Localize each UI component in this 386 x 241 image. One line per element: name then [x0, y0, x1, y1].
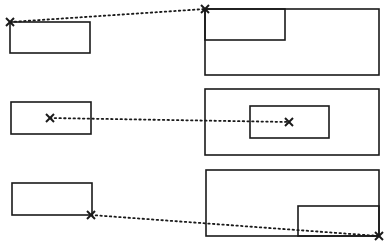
- anchor-diagram: [0, 0, 386, 241]
- dotted-connector: [50, 118, 289, 122]
- dotted-connector: [10, 9, 205, 22]
- dotted-connector: [91, 215, 379, 236]
- target-inner-rect: [298, 206, 379, 236]
- diagram-row-top-left-anchor: [6, 5, 379, 75]
- target-outer-rect: [205, 89, 379, 155]
- target-inner-rect: [205, 9, 285, 40]
- target-outer-rect: [205, 9, 379, 75]
- source-rect: [12, 183, 92, 215]
- source-rect: [10, 22, 90, 53]
- diagram-row-bottom-right-anchor: [12, 170, 383, 240]
- cross-marker-icon: [46, 114, 54, 122]
- diagram-row-center-anchor: [11, 89, 379, 155]
